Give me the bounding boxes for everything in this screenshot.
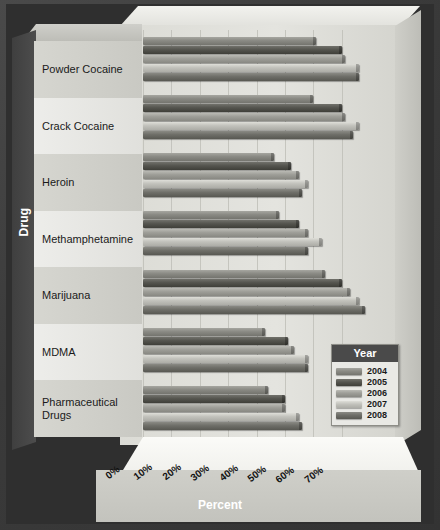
bar-end-cap <box>356 122 359 130</box>
bar-2008-2[interactable] <box>143 131 353 139</box>
bar-end-cap <box>347 288 350 296</box>
bar-end-cap <box>271 153 274 161</box>
bar-2005-7[interactable] <box>143 395 285 403</box>
bar-end-cap <box>288 162 291 170</box>
bar-2004-6[interactable] <box>143 328 265 336</box>
bar-2008-3[interactable] <box>143 189 302 197</box>
bar-end-cap <box>285 337 288 345</box>
bar-2006-6[interactable] <box>143 346 294 354</box>
bar-group-4 <box>143 204 403 262</box>
bar-2007-4[interactable] <box>143 238 322 246</box>
bar-2008-7[interactable] <box>143 422 302 430</box>
bar-end-cap <box>305 364 308 372</box>
bar-2006-1[interactable] <box>143 55 345 63</box>
category-label-6: MDMA <box>34 324 142 381</box>
bar-slot <box>143 55 403 63</box>
legend-item-2008[interactable]: 2008 <box>336 410 394 420</box>
bar-end-cap <box>305 229 308 237</box>
bar-end-cap <box>296 413 299 421</box>
legend-item-2005[interactable]: 2005 <box>336 377 394 387</box>
category-label-1: Powder Cocaine <box>34 41 142 98</box>
bar-slot <box>143 122 403 130</box>
bar-2004-5[interactable] <box>143 270 325 278</box>
bar-2006-4[interactable] <box>143 229 308 237</box>
legend-item-2006[interactable]: 2006 <box>336 388 394 398</box>
bar-2004-1[interactable] <box>143 37 316 45</box>
legend-items: 20042005200620072008 <box>332 362 398 425</box>
bar-2005-2[interactable] <box>143 104 342 112</box>
legend-swatch-2005 <box>336 379 362 386</box>
bar-slot <box>143 113 403 121</box>
bar-2005-6[interactable] <box>143 337 288 345</box>
bar-2007-1[interactable] <box>143 64 359 72</box>
bar-end-cap <box>276 211 279 219</box>
bar-end-cap <box>350 131 353 139</box>
bar-end-cap <box>319 238 322 246</box>
bar-2007-3[interactable] <box>143 180 308 188</box>
chart-frame: Powder CocaineCrack CocaineHeroinMethamp… <box>0 0 440 530</box>
bar-slot <box>143 162 403 170</box>
bar-end-cap <box>262 328 265 336</box>
x-axis-title: Percent <box>0 498 440 512</box>
bar-2008-6[interactable] <box>143 364 308 372</box>
bar-end-cap <box>356 297 359 305</box>
bar-end-cap <box>265 386 268 394</box>
category-label-4: Methamphetamine <box>34 211 142 268</box>
category-axis-panel: Powder CocaineCrack CocaineHeroinMethamp… <box>34 41 142 437</box>
bar-2006-5[interactable] <box>143 288 350 296</box>
bar-2007-2[interactable] <box>143 122 359 130</box>
bar-end-cap <box>313 37 316 45</box>
bar-end-cap <box>299 422 302 430</box>
bar-2005-5[interactable] <box>143 279 342 287</box>
bar-end-cap <box>339 279 342 287</box>
bar-2008-1[interactable] <box>143 73 359 81</box>
bar-end-cap <box>310 95 313 103</box>
legend-label-2005: 2005 <box>367 377 387 387</box>
bar-2005-4[interactable] <box>143 220 299 228</box>
bar-2006-7[interactable] <box>143 404 285 412</box>
bar-end-cap <box>305 180 308 188</box>
bar-slot <box>143 238 403 246</box>
bar-end-cap <box>282 395 285 403</box>
legend-item-2004[interactable]: 2004 <box>336 366 394 376</box>
bar-2007-7[interactable] <box>143 413 299 421</box>
bar-slot <box>143 229 403 237</box>
bar-2006-3[interactable] <box>143 171 299 179</box>
legend-label-2006: 2006 <box>367 388 387 398</box>
bar-2004-7[interactable] <box>143 386 268 394</box>
bar-slot <box>143 288 403 296</box>
bar-2004-4[interactable] <box>143 211 279 219</box>
bar-2006-2[interactable] <box>143 113 345 121</box>
category-label-2: Crack Cocaine <box>34 98 142 155</box>
plot-wall-top-face <box>120 6 420 26</box>
bar-slot <box>143 153 403 161</box>
legend-item-2007[interactable]: 2007 <box>336 399 394 409</box>
bar-2007-6[interactable] <box>143 355 308 363</box>
bar-slot <box>143 104 403 112</box>
bar-slot <box>143 279 403 287</box>
bar-2005-1[interactable] <box>143 46 342 54</box>
bar-2007-5[interactable] <box>143 297 359 305</box>
legend-label-2004: 2004 <box>367 366 387 376</box>
legend-label-2007: 2007 <box>367 399 387 409</box>
bar-end-cap <box>305 247 308 255</box>
bar-2008-5[interactable] <box>143 306 365 314</box>
bar-2008-4[interactable] <box>143 247 308 255</box>
bar-2004-2[interactable] <box>143 95 313 103</box>
legend[interactable]: Year 20042005200620072008 <box>331 344 399 426</box>
category-panel-top-face <box>22 24 142 42</box>
bar-end-cap <box>339 104 342 112</box>
bar-end-cap <box>342 113 345 121</box>
bar-end-cap <box>356 64 359 72</box>
bar-slot <box>143 247 403 255</box>
bar-end-cap <box>282 404 285 412</box>
legend-swatch-2006 <box>336 390 362 397</box>
bar-2005-3[interactable] <box>143 162 291 170</box>
bar-slot <box>143 328 403 336</box>
bar-end-cap <box>356 73 359 81</box>
legend-swatch-2007 <box>336 401 362 408</box>
bar-slot <box>143 131 403 139</box>
bar-slot <box>143 95 403 103</box>
bar-end-cap <box>296 171 299 179</box>
bar-2004-3[interactable] <box>143 153 274 161</box>
